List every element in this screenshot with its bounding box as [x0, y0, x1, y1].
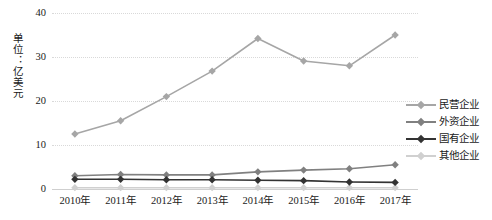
legend-label: 民营企业 [436, 98, 479, 111]
y-axis-tick-labels: 010203040 [22, 0, 46, 220]
data-point-marker [391, 179, 398, 186]
data-point-marker [300, 166, 307, 173]
legend-diamond-icon [417, 100, 425, 108]
line-chart: 单位：亿美元 010203040 2010年2011年2012年2013年201… [0, 0, 492, 220]
legend-label: 外资企业 [436, 115, 479, 128]
y-axis-tick-label: 0 [24, 184, 46, 195]
legend-marker-icon [406, 98, 436, 111]
legend-marker-icon [406, 132, 436, 145]
legend-marker-icon [406, 115, 436, 128]
legend-label: 国有企业 [436, 132, 479, 145]
legend-marker-icon [406, 149, 436, 162]
data-point-marker [117, 176, 124, 183]
x-axis-tick-labels: 2010年2011年2012年2013年2014年2015年2016年2017年 [52, 194, 418, 214]
x-axis-tick-label: 2017年 [365, 194, 425, 207]
y-axis-tick-label: 40 [24, 8, 46, 19]
data-point-marker [346, 178, 353, 185]
data-point-marker [117, 184, 124, 191]
y-axis-tick-label: 20 [24, 96, 46, 107]
data-point-marker [300, 184, 307, 191]
data-point-marker [208, 184, 215, 191]
data-point-marker [163, 93, 170, 100]
data-point-marker [346, 165, 353, 172]
series-line [75, 35, 395, 134]
data-point-marker [71, 130, 78, 137]
data-point-marker [254, 184, 261, 191]
data-point-marker [208, 176, 215, 183]
data-point-marker [391, 161, 398, 168]
chart-legend: 民营企业外资企业国有企业其他企业 [406, 96, 492, 164]
data-point-marker [117, 117, 124, 124]
legend-item[interactable]: 外资企业 [406, 113, 492, 130]
data-point-marker [254, 168, 261, 175]
data-point-marker [163, 176, 170, 183]
y-axis-title: 单位：亿美元 [2, 6, 22, 126]
legend-diamond-icon [417, 151, 425, 159]
data-point-marker [300, 177, 307, 184]
data-point-marker [254, 177, 261, 184]
legend-item[interactable]: 其他企业 [406, 147, 492, 164]
legend-diamond-icon [417, 117, 425, 125]
gridline [52, 189, 418, 190]
legend-label: 其他企业 [436, 149, 479, 162]
series-0 [71, 31, 399, 137]
y-axis-tick-label: 30 [24, 52, 46, 63]
legend-item[interactable]: 国有企业 [406, 130, 492, 147]
data-point-marker [163, 184, 170, 191]
data-point-marker [71, 184, 78, 191]
legend-item[interactable]: 民营企业 [406, 96, 492, 113]
legend-diamond-icon [417, 134, 425, 142]
plot-area [52, 13, 418, 189]
y-axis-tick-label: 10 [24, 140, 46, 151]
series-layer [52, 13, 418, 189]
data-point-marker [300, 57, 307, 64]
